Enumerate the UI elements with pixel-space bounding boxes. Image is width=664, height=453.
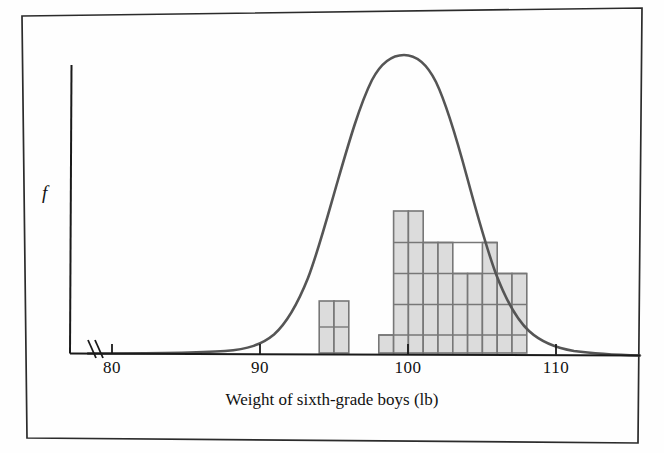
x-axis-line (70, 354, 640, 356)
figure-container: 80 90 100 110 f Weight of sixth-grade bo… (0, 0, 664, 453)
bar-100 (408, 211, 423, 353)
normal-density-curve (88, 55, 640, 356)
chart-plot-area (0, 0, 664, 453)
x-tick-label-80: 80 (82, 358, 142, 378)
axis-break-marker (88, 340, 103, 358)
tick-text-90: 90 (251, 358, 269, 377)
tick-text-110: 110 (543, 358, 569, 377)
bar-102 (438, 243, 453, 354)
bar-101 (423, 243, 438, 354)
x-tick-label-90: 90 (230, 358, 290, 378)
bar-99 (394, 211, 409, 353)
bar-98 (379, 335, 394, 353)
histogram-bars (319, 211, 527, 353)
x-axis-title: Weight of sixth-grade boys (lb) (132, 390, 532, 410)
x-tick-label-110: 110 (526, 358, 586, 378)
bar-104 (468, 274, 483, 354)
tick-text-100: 100 (395, 358, 422, 377)
x-tick-label-100: 100 (378, 358, 438, 378)
tick-text-80: 80 (103, 358, 121, 377)
y-axis-label: f (42, 182, 47, 204)
y-axis-line (70, 65, 72, 354)
bar-103 (453, 274, 468, 354)
